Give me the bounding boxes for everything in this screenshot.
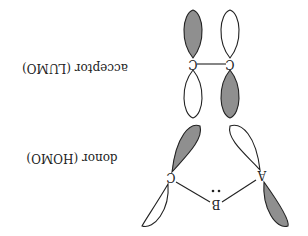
donor-atom-a: A <box>257 168 267 182</box>
donor-atom-b: B <box>211 197 220 211</box>
lumo-lobe-shaded <box>184 10 202 58</box>
donor-atom-c: C <box>166 170 175 184</box>
homo-lobe-open <box>142 184 168 227</box>
homo-lobe-open <box>230 125 260 170</box>
lone-pair-dot <box>212 190 215 193</box>
acceptor-atom-c-left: C <box>188 57 197 71</box>
ab-bond-line <box>222 180 256 202</box>
lumo-lobe-open <box>184 70 202 118</box>
lone-pair-dot <box>218 190 221 193</box>
acceptor-label: acceptor (LUMO) <box>22 61 128 75</box>
orbital-interaction-diagram: C C C A B acceptor (LUMO) donor (HOMO) <box>0 0 308 236</box>
homo-lobe-shaded <box>172 125 201 172</box>
acceptor-atom-c-right: C <box>225 57 234 71</box>
cb-bond-line <box>176 182 210 202</box>
lumo-lobe-open <box>221 10 239 58</box>
lumo-lobe-shaded <box>221 70 239 118</box>
donor-label: donor (HOMO) <box>26 151 117 165</box>
homo-lobe-shaded <box>264 182 288 226</box>
